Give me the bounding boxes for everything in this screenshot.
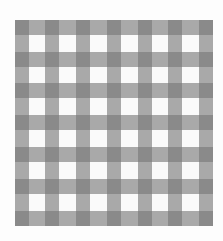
horizontal-stripe xyxy=(15,115,213,130)
horizontal-stripe xyxy=(15,52,213,67)
horizontal-stripe xyxy=(15,179,213,194)
horizontal-stripe xyxy=(15,20,213,35)
horizontal-stripe xyxy=(15,211,213,226)
horizontal-stripe xyxy=(15,147,213,162)
horizontal-stripe xyxy=(15,83,213,98)
gingham-fabric xyxy=(15,20,213,226)
